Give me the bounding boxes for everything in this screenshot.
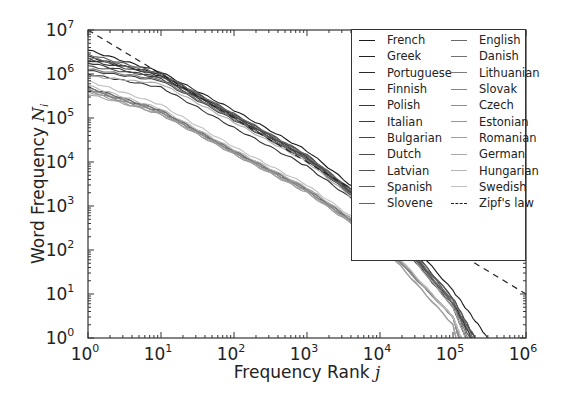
legend-item: Estonian	[444, 113, 540, 129]
legend-label: Danish	[479, 49, 519, 63]
legend-item: Lithuanian	[444, 65, 540, 81]
y-tick-label: 103	[46, 194, 75, 216]
legend-item: Latvian	[352, 162, 452, 178]
legend-swatch	[359, 186, 375, 187]
legend-swatch	[359, 170, 375, 171]
legend-label: Italian	[387, 115, 423, 129]
legend-item: Portuguese	[352, 65, 452, 81]
legend-item: Italian	[352, 113, 452, 129]
y-tick-label: 107	[46, 18, 75, 40]
legend-swatch	[451, 170, 467, 171]
legend-swatch	[359, 89, 375, 90]
legend-column-1: FrenchGreekPortugueseFinnishPolishItalia…	[352, 32, 452, 211]
y-axis-label: Word Frequency Ni	[28, 104, 50, 264]
x-tick-label: 100	[71, 342, 100, 364]
x-tick-label: 106	[509, 342, 538, 364]
legend-swatch	[359, 137, 375, 138]
legend-item: Romanian	[444, 130, 540, 146]
x-tick-label: 104	[363, 342, 392, 364]
legend-item: Zipf's law	[444, 195, 540, 211]
legend-item: Finnish	[352, 81, 452, 97]
x-tick-label: 103	[290, 342, 319, 364]
legend-item: Bulgarian	[352, 130, 452, 146]
x-tick-label: 102	[217, 342, 246, 364]
legend-swatch	[451, 40, 467, 41]
legend-item: Slovene	[352, 195, 452, 211]
legend-label: Finnish	[387, 82, 427, 96]
legend-swatch	[359, 154, 375, 155]
legend-label: Hungarian	[479, 164, 539, 178]
legend-label: Slovene	[387, 196, 433, 210]
legend-swatch	[359, 72, 375, 73]
legend-label: Latvian	[387, 164, 429, 178]
legend-label: Polish	[387, 98, 420, 112]
legend-label: Estonian	[479, 115, 529, 129]
legend-item: English	[444, 32, 540, 48]
legend-swatch	[451, 105, 467, 106]
legend-label: Swedish	[479, 180, 527, 194]
y-tick-label: 106	[46, 62, 75, 84]
legend-item: Polish	[352, 97, 452, 113]
legend-item: Spanish	[352, 179, 452, 195]
legend-swatch	[451, 154, 467, 155]
legend-label: Czech	[479, 98, 514, 112]
legend-label: Dutch	[387, 147, 421, 161]
legend-label: Zipf's law	[479, 196, 534, 210]
legend-label: German	[479, 147, 525, 161]
legend-label: Slovak	[479, 82, 517, 96]
x-tick-label: 105	[436, 342, 465, 364]
x-axis-label: Frequency Rank j	[234, 362, 381, 382]
legend-swatch	[359, 56, 375, 57]
legend-swatch	[451, 56, 467, 57]
legend-item: Slovak	[444, 81, 540, 97]
y-tick-label: 105	[46, 106, 75, 128]
legend: FrenchGreekPortugueseFinnishPolishItalia…	[351, 29, 526, 261]
legend-label: French	[387, 33, 425, 47]
legend-swatch	[359, 40, 375, 41]
legend-label: Portuguese	[387, 66, 452, 80]
legend-label: English	[479, 33, 521, 47]
y-tick-label: 101	[46, 282, 75, 304]
legend-item: French	[352, 32, 452, 48]
legend-label: Spanish	[387, 180, 432, 194]
legend-swatch	[451, 137, 467, 138]
legend-item: German	[444, 146, 540, 162]
legend-swatch	[451, 121, 467, 122]
legend-label: Romanian	[479, 131, 537, 145]
legend-label: Greek	[387, 49, 421, 63]
legend-label: Bulgarian	[387, 131, 442, 145]
legend-swatch	[451, 203, 467, 204]
legend-swatch	[359, 121, 375, 122]
legend-column-2: EnglishDanishLithuanianSlovakCzechEstoni…	[444, 32, 540, 211]
legend-swatch	[451, 89, 467, 90]
legend-swatch	[451, 72, 467, 73]
legend-item: Czech	[444, 97, 540, 113]
legend-swatch	[359, 203, 375, 204]
y-tick-label: 102	[46, 238, 75, 260]
legend-swatch	[451, 186, 467, 187]
x-tick-label: 101	[144, 342, 173, 364]
y-tick-label: 104	[46, 150, 75, 172]
legend-item: Hungarian	[444, 162, 540, 178]
legend-swatch	[359, 105, 375, 106]
legend-item: Swedish	[444, 179, 540, 195]
legend-item: Greek	[352, 48, 452, 64]
legend-item: Danish	[444, 48, 540, 64]
legend-item: Dutch	[352, 146, 452, 162]
legend-label: Lithuanian	[479, 66, 540, 80]
